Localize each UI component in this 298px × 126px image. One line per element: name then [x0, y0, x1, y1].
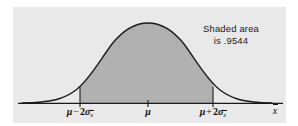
- xbar-subscript-left: x: [90, 111, 93, 118]
- mu-symbol-center: μ: [145, 106, 151, 117]
- tick-label-lower-bound: μ−2σx: [47, 106, 113, 118]
- tick-label-mean: μ: [133, 106, 163, 117]
- minus-operator: −: [72, 106, 80, 117]
- annotation-line-2: is .9544: [183, 35, 279, 47]
- xbar-subscript-right: x: [223, 111, 226, 118]
- xbar-symbol: x: [273, 105, 277, 116]
- normal-distribution-figure: Shaded area is .9544 μ−2σx μ μ+2σx x: [0, 0, 298, 126]
- x-axis-label: x: [264, 105, 286, 116]
- tick-label-upper-bound: μ+2σx: [180, 106, 246, 118]
- shaded-area-annotation: Shaded area is .9544: [183, 23, 279, 46]
- plus-operator: +: [205, 106, 213, 117]
- annotation-line-1: Shaded area: [183, 23, 279, 35]
